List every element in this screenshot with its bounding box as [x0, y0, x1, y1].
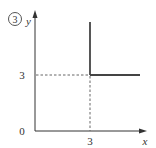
x-axis-label: x — [142, 135, 148, 147]
y-axis-label: y — [25, 15, 31, 27]
graph-figure: 3 y 3 0 3 x — [0, 0, 156, 148]
origin-label: 0 — [19, 125, 25, 137]
x-axis-arrow-icon — [139, 129, 147, 134]
figure-number: 3 — [13, 14, 18, 25]
x-tick-label: 3 — [87, 135, 93, 147]
y-axis-arrow-icon — [33, 10, 38, 18]
y-tick-label: 3 — [19, 69, 25, 81]
